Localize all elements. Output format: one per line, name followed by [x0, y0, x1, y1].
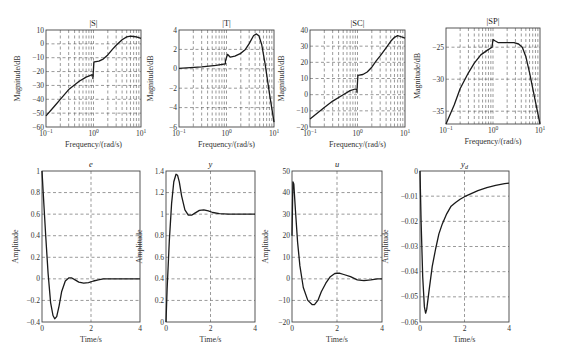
x-tick-label: 4 — [253, 324, 257, 333]
y-tick-label: −50 — [32, 109, 44, 118]
y-tick-label: −10 — [296, 106, 308, 115]
x-tick-label: 100 — [88, 128, 99, 138]
y-tick-label: −2 — [169, 84, 177, 93]
y-tick-label: −0.01 — [401, 192, 419, 201]
data-curve — [420, 171, 509, 313]
y-tick-label: 4 — [173, 26, 177, 35]
x-tick-label: 2 — [335, 324, 339, 333]
x-axis-label: Time/s — [80, 335, 102, 344]
y-tick-label: −30 — [432, 75, 444, 84]
x-tick-label: 101 — [535, 125, 546, 135]
y-axis-label: Amplitude — [11, 229, 20, 264]
y-tick-label: 1.4 — [155, 167, 165, 176]
subplot-SC: 403020100−10−2010−1100101|SC|Frequency/(… — [277, 18, 410, 149]
y-tick-label: 0 — [40, 39, 44, 48]
y-tick-label: 1 — [36, 167, 40, 176]
grid-lines — [292, 171, 382, 322]
y-tick-label: 0.2 — [31, 253, 41, 262]
x-axis-label: Frequency/(rad/s) — [465, 137, 522, 146]
y-tick-label: 0 — [286, 274, 290, 283]
subplot-title: |T| — [222, 18, 231, 28]
x-tick-label: 100 — [221, 128, 232, 138]
y-tick-label: −40 — [32, 95, 44, 104]
x-tick-label: 4 — [507, 324, 511, 333]
y-tick-label: −35 — [432, 107, 444, 116]
x-axis-label: Frequency/(rad/s) — [329, 140, 386, 149]
y-tick-label: 1.2 — [155, 188, 165, 197]
x-tick-label: 10−1 — [303, 128, 317, 138]
y-axis-label: Amplitude — [261, 229, 270, 264]
x-tick-label: 0 — [290, 324, 294, 333]
y-tick-label: 0.6 — [155, 253, 165, 262]
y-tick-label: 30 — [301, 42, 309, 51]
x-axis-label: Time/s — [326, 335, 348, 344]
subplot-yd: 0−0.01−0.02−0.03−0.04−0.05−0.06024ydTime… — [381, 159, 511, 344]
y-axis-label: Magnitude/dB — [413, 53, 422, 99]
y-axis-label: Magnitude/dB — [13, 55, 22, 101]
y-tick-label: 20 — [283, 231, 291, 240]
y-tick-label: 40 — [301, 26, 309, 35]
y-tick-label: 0.4 — [155, 274, 165, 283]
subplot-title: |S| — [89, 18, 97, 28]
y-tick-label: 0 — [36, 274, 40, 283]
y-tick-label: 10 — [37, 26, 45, 35]
y-tick-label: 30 — [283, 210, 291, 219]
y-tick-label: −25 — [432, 43, 444, 52]
x-tick-label: 0 — [418, 324, 422, 333]
y-tick-label: −20 — [32, 67, 44, 76]
y-tick-label: −30 — [32, 81, 44, 90]
subplot-S: 100−10−20−30−40−50−6010−1100101|S|Freque… — [13, 18, 146, 149]
y-tick-label: 0 — [414, 167, 418, 176]
y-tick-label: 50 — [283, 167, 291, 176]
y-tick-label: 10 — [301, 74, 309, 83]
y-tick-label: 0.8 — [155, 231, 165, 240]
subplot-u: 50403020100−10−20024uTime/sAmplitude — [261, 159, 384, 344]
y-tick-label: −10 — [278, 296, 290, 305]
y-tick-label: 20 — [301, 58, 309, 67]
x-tick-label: 101 — [269, 128, 280, 138]
y-tick-label: −0.02 — [401, 217, 419, 226]
x-tick-label: 2 — [209, 324, 213, 333]
subplot-title: e — [89, 159, 93, 169]
y-tick-label: 0.2 — [155, 296, 165, 305]
grid-lines — [166, 171, 255, 322]
y-tick-label: 0.8 — [31, 188, 41, 197]
y-tick-label: −4 — [169, 103, 177, 112]
grid-lines — [42, 171, 140, 322]
subplot-e: 10.80.60.40.20−0.2−0.4024eTime/sAmplitud… — [11, 159, 142, 344]
y-axis-label: Magnitude/dB — [277, 55, 286, 101]
x-axis-label: Frequency/(rad/s) — [65, 140, 122, 149]
y-axis-label: Amplitude — [135, 229, 144, 264]
grid-lines — [179, 30, 274, 127]
subplot-T: 420−2−4−610−1100101|T|Frequency/(rad/s)M… — [146, 18, 279, 149]
y-tick-label: −20 — [278, 318, 290, 327]
subplot-SP: −25−30−3510−1100101|SP|Frequency/(rad/s)… — [413, 16, 545, 146]
subplot-title: y — [208, 159, 213, 169]
y-tick-label: 40 — [283, 188, 291, 197]
y-tick-label: 0.4 — [31, 231, 41, 240]
x-tick-label: 4 — [380, 324, 384, 333]
grid-lines — [420, 171, 509, 322]
x-tick-label: 2 — [463, 324, 467, 333]
x-tick-label: 10−1 — [172, 128, 186, 138]
y-tick-label: 2 — [173, 45, 177, 54]
y-axis-label: Amplitude — [381, 229, 390, 264]
x-tick-label: 101 — [400, 128, 411, 138]
y-tick-label: −0.06 — [401, 318, 419, 327]
x-tick-label: 2 — [89, 324, 93, 333]
x-axis-label: Time/s — [454, 335, 476, 344]
x-tick-label: 0 — [164, 324, 168, 333]
y-tick-label: −0.03 — [401, 242, 419, 251]
y-tick-label: 0 — [173, 64, 177, 73]
x-tick-label: 101 — [136, 128, 147, 138]
figure: 100−10−20−30−40−50−6010−1100101|S|Freque… — [0, 0, 573, 358]
x-tick-label: 10−1 — [439, 125, 453, 135]
y-axis-label: Magnitude/dB — [146, 55, 155, 101]
subplot-title: u — [335, 159, 339, 169]
x-tick-label: 10−1 — [39, 128, 53, 138]
x-axis-label: Frequency/(rad/s) — [198, 140, 255, 149]
plot-frame — [179, 30, 274, 127]
x-tick-label: 4 — [138, 324, 142, 333]
y-tick-label: −0.4 — [26, 318, 40, 327]
y-tick-label: −10 — [32, 53, 44, 62]
